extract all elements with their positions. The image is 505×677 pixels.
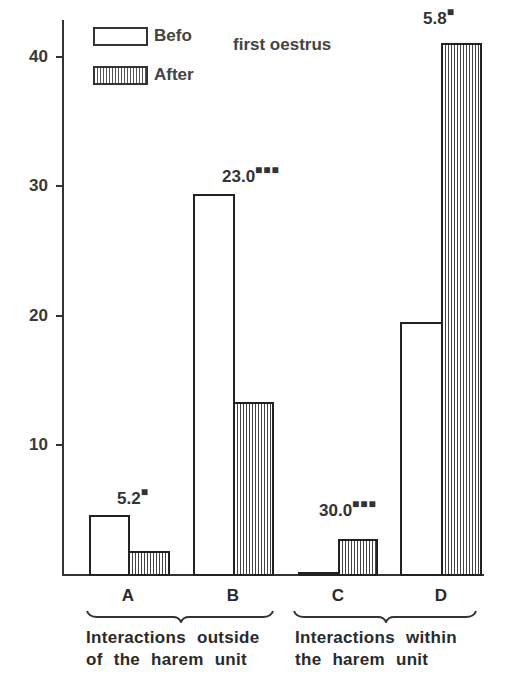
bar-D-before bbox=[400, 322, 443, 576]
group-brace-within bbox=[292, 609, 478, 623]
bar-C-after bbox=[338, 539, 378, 576]
bar-C-before bbox=[298, 572, 340, 576]
bar-B-after bbox=[233, 402, 274, 576]
category-label-D: D bbox=[421, 586, 461, 606]
group-label-within-line2: the harem unit bbox=[295, 649, 457, 671]
group-label-outside: Interactions outside of the harem unit bbox=[86, 627, 260, 671]
group-label-within-line1: Interactions within bbox=[295, 627, 457, 649]
y-tick-20: 20 bbox=[8, 306, 48, 326]
annotation-B: 23.0■■■ bbox=[222, 163, 280, 187]
legend-label-after: After bbox=[154, 65, 194, 85]
annotation-D: 5.8■ bbox=[423, 5, 455, 29]
legend-swatch-after bbox=[93, 66, 148, 85]
y-tickmark bbox=[56, 444, 62, 446]
y-axis-line bbox=[62, 20, 64, 576]
group-label-outside-line1: Interactions outside bbox=[86, 627, 260, 649]
group-label-within: Interactions within the harem unit bbox=[295, 627, 457, 671]
annotation-A: 5.2■ bbox=[117, 485, 149, 509]
group-label-outside-line2: of the harem unit bbox=[86, 649, 260, 671]
legend-label-before: Befo bbox=[154, 26, 192, 46]
y-tickmark bbox=[56, 315, 62, 317]
y-tick-30: 30 bbox=[8, 176, 48, 196]
group-brace-outside bbox=[85, 609, 275, 623]
y-tickmark bbox=[56, 56, 62, 58]
y-tick-40: 40 bbox=[8, 47, 48, 67]
category-label-C: C bbox=[318, 586, 358, 606]
legend-swatch-before bbox=[93, 27, 148, 46]
bar-A-after bbox=[128, 551, 170, 576]
category-label-B: B bbox=[213, 586, 253, 606]
annotation-C: 30.0■■■ bbox=[319, 497, 377, 521]
bar-B-before bbox=[193, 194, 235, 576]
bar-A-before bbox=[89, 515, 130, 576]
bar-D-after bbox=[441, 43, 482, 576]
y-tick-10: 10 bbox=[8, 435, 48, 455]
y-tickmark bbox=[56, 185, 62, 187]
category-label-A: A bbox=[108, 586, 148, 606]
chart-subtitle: first oestrus bbox=[233, 35, 331, 55]
